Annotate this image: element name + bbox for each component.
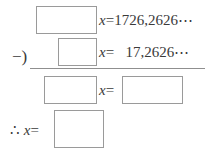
equation-row2: x= 17,2626⋯: [99, 45, 189, 60]
answer-box-row4-final[interactable]: [54, 110, 104, 148]
subtraction-divider-rule: [30, 68, 205, 69]
answer-box-row3-right[interactable]: [122, 76, 183, 104]
variable-x: x: [99, 44, 106, 60]
subtraction-operator: −): [12, 48, 27, 65]
equation-row4-therefore: ∴ x=: [10, 123, 39, 138]
equation-row3: x=: [99, 83, 114, 98]
math-worksheet: x=1726,2626⋯ −) x= 17,2626⋯ x= ∴ x=: [0, 0, 219, 154]
answer-box-row1[interactable]: [36, 6, 97, 34]
answer-box-row2[interactable]: [58, 38, 97, 66]
variable-x: x: [99, 12, 106, 28]
equation-row1: x=1726,2626⋯: [99, 13, 193, 28]
variable-x: x: [99, 82, 106, 98]
answer-box-row3-left[interactable]: [44, 76, 97, 104]
